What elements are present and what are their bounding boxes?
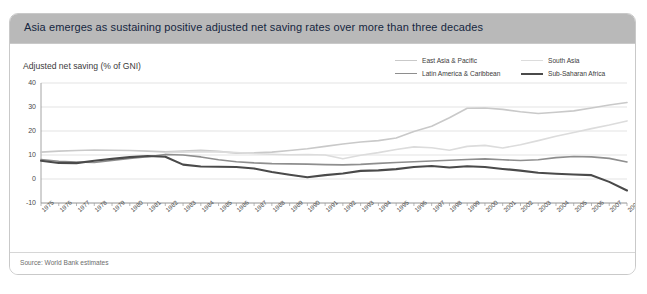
y-axis-tick-10: 10 xyxy=(18,151,36,158)
chart-card: Asia emerges as sustaining positive adju… xyxy=(9,13,636,275)
y-axis-tick-20: 20 xyxy=(18,127,36,134)
y-axis-tick-0: 0 xyxy=(18,175,36,182)
y-axis-tick--10: -10 xyxy=(18,199,36,206)
source-note: Source: World Bank estimates xyxy=(20,259,109,266)
y-axis-tick-30: 30 xyxy=(18,103,36,110)
chart-plot-area: -10010203040 197519761977197819791980198… xyxy=(10,14,636,275)
screenshot-root: Asia emerges as sustaining positive adju… xyxy=(0,0,647,294)
y-axis-tick-40: 40 xyxy=(18,79,36,86)
line-chart xyxy=(10,14,636,275)
card-footer: Source: World Bank estimates xyxy=(10,252,635,274)
